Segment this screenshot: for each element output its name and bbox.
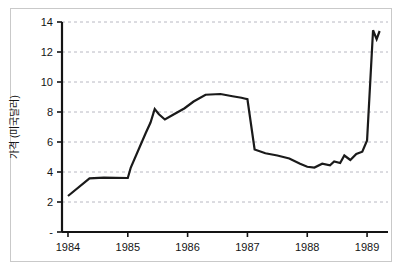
y-axis-title: 가격 (미국달러): [8, 95, 20, 158]
x-tick-label-1989: 1989: [355, 241, 379, 253]
x-tick-label-1985: 1985: [116, 241, 140, 253]
y-tick-label-14: 14: [41, 16, 53, 28]
y-tick-label-2: 2: [47, 196, 53, 208]
price-line-chart: -2468101214 198419851986198719881989 가격 …: [0, 0, 408, 272]
y-tick-label-10: 10: [41, 76, 53, 88]
data-series-line: [68, 30, 380, 196]
x-tick-label-1984: 1984: [56, 241, 80, 253]
y-tick-label-4: 4: [47, 166, 53, 178]
y-tick-label-12: 12: [41, 46, 53, 58]
y-tick-label-8: 8: [47, 106, 53, 118]
x-tick-label-1987: 1987: [235, 241, 259, 253]
y-axis-ticks: -2468101214: [41, 16, 62, 238]
x-tick-label-1988: 1988: [295, 241, 319, 253]
y-tick-label-0: -: [49, 226, 53, 238]
x-axis-ticks: 198419851986198719881989: [56, 232, 380, 253]
x-tick-label-1986: 1986: [175, 241, 199, 253]
y-tick-label-6: 6: [47, 136, 53, 148]
grid-lines: [62, 22, 388, 202]
chart-figure: -2468101214 198419851986198719881989 가격 …: [0, 0, 408, 272]
